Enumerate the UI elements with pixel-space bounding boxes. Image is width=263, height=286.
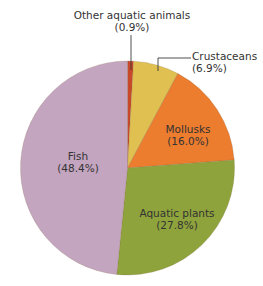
label-plants-name: Aquatic plants [122,207,232,219]
label-crustaceans-pct: (6.9%) [192,62,257,74]
label-other-pct: (0.9%) [67,21,197,33]
label-aquatic-plants: Aquatic plants (27.8%) [122,207,232,231]
label-crustaceans-name: Crustaceans [192,50,257,62]
label-fish-pct: (48.4%) [38,162,118,174]
label-plants-pct: (27.8%) [122,219,232,231]
label-other-name: Other aquatic animals [67,9,197,21]
label-other-aquatic-animals: Other aquatic animals (0.9%) [67,9,197,33]
label-mollusks: Mollusks (16.0%) [148,123,228,147]
label-fish: Fish (48.4%) [38,150,118,174]
label-crustaceans: Crustaceans (6.9%) [192,50,257,74]
label-fish-name: Fish [38,150,118,162]
label-mollusks-pct: (16.0%) [148,135,228,147]
label-mollusks-name: Mollusks [148,123,228,135]
